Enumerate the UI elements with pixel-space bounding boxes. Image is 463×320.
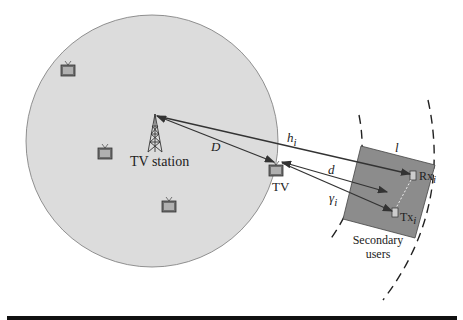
secondary-users-label: Secondary users xyxy=(343,234,413,260)
label-h-i: hi xyxy=(287,131,297,148)
label-d: d xyxy=(328,163,335,176)
rx-device-icon xyxy=(410,171,416,180)
bottom-rule xyxy=(7,316,457,320)
label-l: l xyxy=(395,141,399,154)
tv-station-label: TV station xyxy=(130,155,189,169)
label-gamma-i: γi xyxy=(329,191,337,208)
tx-device-icon xyxy=(392,208,398,217)
tv-label: TV xyxy=(272,180,289,193)
label-tx: Txi xyxy=(400,211,416,226)
label-D: D xyxy=(211,140,220,153)
diagram-canvas xyxy=(0,0,463,320)
coverage-area xyxy=(26,15,278,267)
secondary-users-area xyxy=(343,146,435,238)
label-rx: Rxi xyxy=(419,170,436,185)
